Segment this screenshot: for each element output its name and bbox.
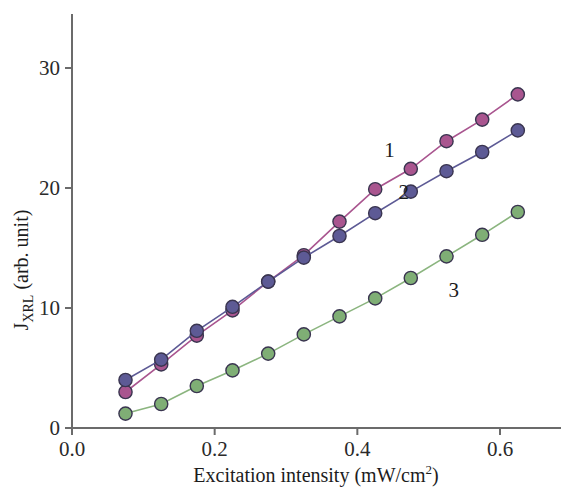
series-label-1: 1 [384, 138, 395, 162]
axes-group [72, 15, 560, 428]
data-point [369, 292, 382, 305]
data-point [262, 275, 275, 288]
chart-figure: 0102030 0.00.20.40.6 123 JXRL (arb. unit… [0, 0, 567, 494]
data-point [155, 353, 168, 366]
x-axis-ticks [72, 428, 500, 435]
data-point [190, 379, 203, 392]
y-axis-title: JXRL (arb. unit) [10, 210, 36, 331]
x-axis-title: Excitation intensity (mW/cm2) [193, 462, 438, 487]
data-point [119, 407, 132, 420]
data-point [226, 364, 239, 377]
y-axis-tick-labels: 0102030 [39, 56, 60, 440]
svg-text:JXRL (arb. unit): JXRL (arb. unit) [10, 210, 36, 331]
data-point [476, 113, 489, 126]
series-annotation-labels: 123 [384, 138, 459, 302]
y-tick-label: 10 [39, 296, 60, 320]
series-line [126, 94, 518, 392]
series-line [126, 212, 518, 414]
data-point [476, 145, 489, 158]
y-axis-ticks [65, 68, 72, 428]
data-point [226, 300, 239, 313]
data-point [155, 397, 168, 410]
data-point [190, 324, 203, 337]
x-tick-label: 0.4 [344, 437, 371, 461]
y-tick-label: 30 [39, 56, 60, 80]
data-point [404, 162, 417, 175]
series-group [119, 88, 524, 420]
data-series-2 [119, 124, 524, 387]
data-series-1 [119, 88, 524, 399]
data-point [476, 228, 489, 241]
y-axis-title-tail: (arb. unit) [10, 210, 33, 295]
data-point [404, 271, 417, 284]
data-point [440, 250, 453, 263]
y-tick-label: 20 [39, 176, 60, 200]
x-tick-label: 0.2 [202, 437, 228, 461]
data-point [369, 207, 382, 220]
data-point [440, 135, 453, 148]
data-point [511, 205, 524, 218]
data-point [369, 183, 382, 196]
data-point [297, 328, 310, 341]
data-point [333, 229, 346, 242]
data-point [119, 385, 132, 398]
data-point [333, 215, 346, 228]
series-line [126, 130, 518, 380]
x-axis-title-tail: ) [432, 464, 439, 487]
data-point [297, 251, 310, 264]
x-axis-title-main: Excitation intensity (mW/cm [193, 464, 426, 487]
xrl-vs-excitation-intensity-plot: 0102030 0.00.20.40.6 123 JXRL (arb. unit… [0, 0, 567, 494]
data-point [262, 347, 275, 360]
data-point [333, 310, 346, 323]
x-axis-tick-labels: 0.00.20.40.6 [59, 437, 513, 461]
x-tick-label: 0.0 [59, 437, 85, 461]
x-tick-label: 0.6 [487, 437, 513, 461]
data-point [119, 373, 132, 386]
data-point [511, 124, 524, 137]
svg-text:Excitation intensity (mW/cm2): Excitation intensity (mW/cm2) [193, 462, 438, 487]
data-point [440, 165, 453, 178]
series-label-2: 2 [398, 180, 409, 204]
y-axis-title-subscript: XRL [21, 295, 36, 323]
series-label-3: 3 [448, 278, 459, 302]
data-point [511, 88, 524, 101]
y-axis-title-main: J [10, 322, 32, 330]
